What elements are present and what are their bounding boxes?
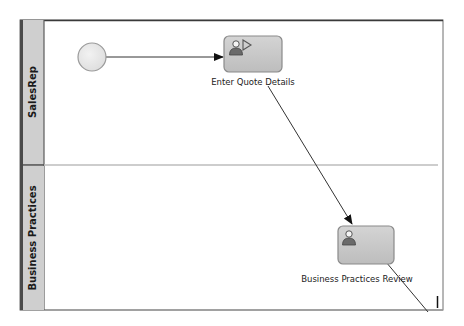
process-diagram: SalesRep Business Practices Enter Quote …	[0, 0, 464, 326]
start-event[interactable]	[78, 43, 106, 71]
lane-label-business-practices: Business Practices	[27, 185, 38, 290]
lane-label-salesrep: SalesRep	[27, 66, 38, 118]
task-label: Enter Quote Details	[211, 77, 295, 87]
task-label: Business Practices Review	[301, 274, 413, 284]
lane-business-practices[interactable]: Business Practices	[23, 166, 44, 310]
